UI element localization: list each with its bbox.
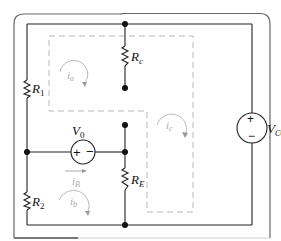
ib-arrowhead-icon [82,169,87,173]
label-rc: Rc [130,49,143,66]
outer-frame [14,14,270,239]
mesh-c-label: ic [166,119,173,133]
label-vcc: VCC [267,121,281,138]
label-v0: V0 [72,123,85,140]
v0-minus: − [86,144,94,159]
label-ib: iB [72,175,80,189]
mesh-b-label: ib [70,195,77,209]
resistor-rc [122,46,128,66]
mesh-b-arrowhead-icon [85,211,90,216]
label-r1: R1 [31,81,44,98]
label-r2: R2 [31,194,44,211]
resistor-r2 [24,192,30,210]
v0-plus: + [73,145,81,160]
circuit-diagram: + − + − R1 R2 Rc RE V0 VCC iB ia ib ic [0,0,281,241]
label-re: RE [130,172,145,189]
mesh-a-arrowhead-icon [82,82,87,87]
mesh-c-arrowhead-icon [182,132,188,138]
mesh-a-label: ia [67,69,74,83]
wires [27,24,252,225]
vcc-plus: + [247,112,254,126]
resistor-r1 [24,80,30,98]
vcc-minus: − [248,129,255,143]
resistor-re [122,168,128,190]
